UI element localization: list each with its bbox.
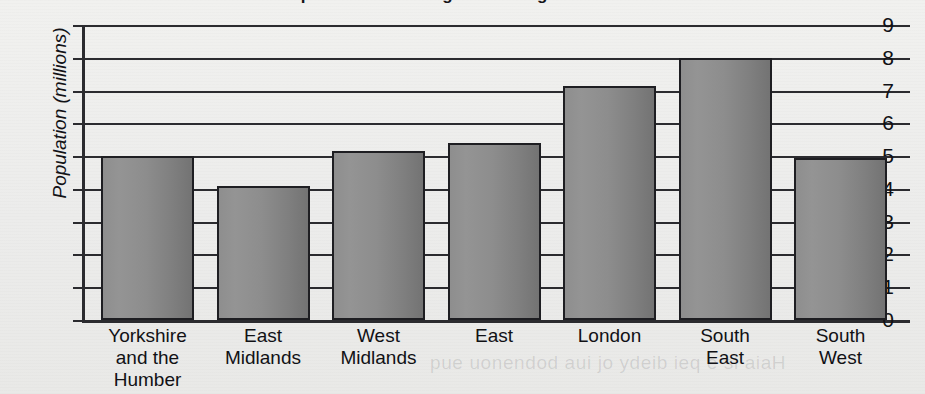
y-axis-line xyxy=(82,25,85,320)
x-label-line: and the xyxy=(86,347,209,369)
x-label-line: West xyxy=(317,325,440,347)
x-label-line: East xyxy=(202,325,325,347)
x-label-line: Humber xyxy=(86,369,209,391)
x-label-line: South xyxy=(779,325,902,347)
bar xyxy=(794,158,887,320)
gridline-7 xyxy=(82,91,910,93)
y-tick-2 xyxy=(73,254,82,256)
gridline-9 xyxy=(82,25,910,27)
bar xyxy=(448,143,541,320)
x-label-line: East xyxy=(433,325,556,347)
y-tick-4 xyxy=(73,189,82,191)
y-tick-9 xyxy=(73,25,82,27)
x-label-line: London xyxy=(548,325,671,347)
bar xyxy=(101,156,194,320)
y-tick-label-9: 9 xyxy=(868,14,894,35)
bar xyxy=(332,151,425,320)
gridline-0 xyxy=(82,320,910,323)
bar xyxy=(563,86,656,320)
gridline-8 xyxy=(82,58,910,60)
gridline-6 xyxy=(82,123,910,125)
bar xyxy=(679,58,772,320)
x-label-line: Midlands xyxy=(202,347,325,369)
x-axis-label-1: EastMidlands xyxy=(202,325,325,369)
y-tick-label-8: 8 xyxy=(868,47,894,68)
y-tick-5 xyxy=(73,156,82,158)
chart-title: Population of the regions of England in … xyxy=(0,0,925,5)
chart-page: Population of the regions of England in … xyxy=(0,0,925,394)
x-axis-label-2: WestMidlands xyxy=(317,325,440,369)
y-tick-1 xyxy=(73,287,82,289)
chart-title-clipped: Population of the regions of England in … xyxy=(0,0,925,10)
bar xyxy=(217,186,310,320)
y-tick-6 xyxy=(73,123,82,125)
plot-area: 0123456789 xyxy=(82,25,910,320)
x-axis-label-3: East xyxy=(433,325,556,347)
x-label-line: Yorkshire xyxy=(86,325,209,347)
x-axis-label-4: London xyxy=(548,325,671,347)
y-tick-label-7: 7 xyxy=(868,80,894,101)
y-tick-0 xyxy=(73,320,82,322)
y-tick-7 xyxy=(73,91,82,93)
y-axis-label: Population (millions) xyxy=(49,0,71,228)
y-tick-label-6: 6 xyxy=(868,112,894,133)
x-label-line: Midlands xyxy=(317,347,440,369)
x-label-line: South xyxy=(664,325,787,347)
paper-bleed-text: pue uonendod aui jo ydeib ieq e si aiaH xyxy=(430,352,900,378)
y-tick-3 xyxy=(73,222,82,224)
x-axis-label-0: Yorkshireand theHumber xyxy=(86,325,209,391)
y-tick-8 xyxy=(73,58,82,60)
